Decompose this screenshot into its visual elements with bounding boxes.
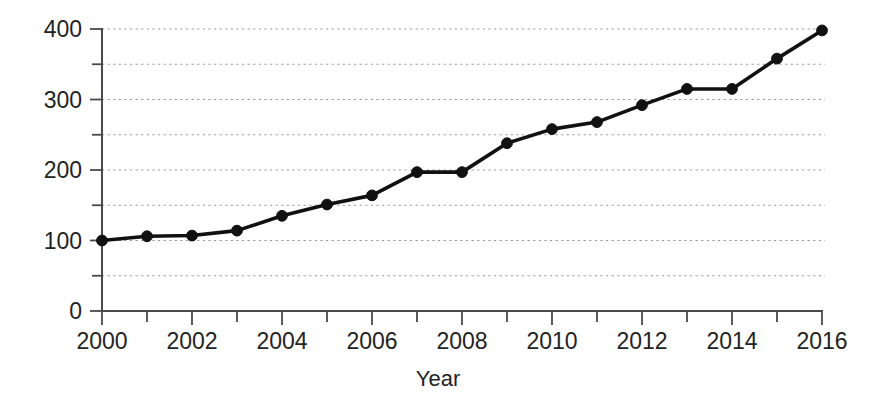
x-tick-label: 2002	[166, 328, 217, 354]
data-point	[772, 53, 783, 64]
data-point	[457, 167, 468, 178]
x-tick-label: 2010	[526, 328, 577, 354]
y-tick-label: 100	[44, 228, 82, 254]
x-tick-label: 2012	[616, 328, 667, 354]
data-point	[637, 100, 648, 111]
data-point	[592, 117, 603, 128]
data-point	[547, 124, 558, 135]
x-axis-title: Year	[416, 366, 460, 391]
line-chart: 0100200300400 20002002200420062008201020…	[0, 0, 877, 406]
data-point	[502, 138, 513, 149]
y-axis-tick-labels: 0100200300400	[44, 16, 82, 324]
x-tick-label: 2000	[76, 328, 127, 354]
x-tick-label: 2016	[796, 328, 847, 354]
y-tick-label: 400	[44, 16, 82, 42]
gridlines	[102, 29, 825, 276]
data-point	[142, 231, 153, 242]
data-point	[727, 84, 738, 95]
x-tick-label: 2004	[256, 328, 307, 354]
data-point	[367, 190, 378, 201]
data-point	[187, 230, 198, 241]
data-point	[412, 167, 423, 178]
y-tick-label: 300	[44, 87, 82, 113]
x-axis-tick-labels: 200020022004200620082010201220142016	[76, 328, 847, 354]
x-axis-ticks	[102, 311, 822, 325]
y-tick-label: 200	[44, 157, 82, 183]
data-point-markers	[97, 25, 828, 246]
data-point	[277, 210, 288, 221]
y-tick-label: 0	[69, 298, 82, 324]
data-series-line	[102, 30, 822, 240]
y-axis-ticks	[90, 29, 102, 311]
data-point	[322, 199, 333, 210]
data-point	[682, 84, 693, 95]
chart-canvas: 0100200300400 20002002200420062008201020…	[0, 0, 877, 406]
data-point	[97, 235, 108, 246]
data-point	[817, 25, 828, 36]
x-tick-label: 2008	[436, 328, 487, 354]
data-point	[232, 225, 243, 236]
x-tick-label: 2014	[706, 328, 757, 354]
x-tick-label: 2006	[346, 328, 397, 354]
